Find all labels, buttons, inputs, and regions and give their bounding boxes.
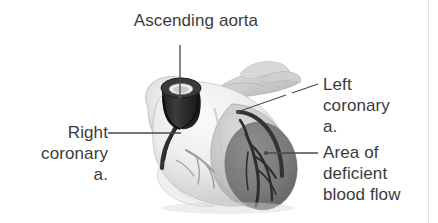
label-right-coronary-artery: Right coronary a. [8, 122, 108, 185]
page-edge-line [428, 0, 429, 223]
label-area-of-deficient-blood-flow: Area of deficient blood flow [323, 142, 435, 205]
label-left-coronary-artery: Left coronary a. [323, 74, 435, 137]
heart-body-group [146, 62, 303, 215]
leader-left-coronary [292, 84, 318, 93]
heart-anatomy-figure: Ascending aorta Right coronary a. Left c… [0, 0, 438, 223]
label-ascending-aorta: Ascending aorta [106, 10, 286, 31]
